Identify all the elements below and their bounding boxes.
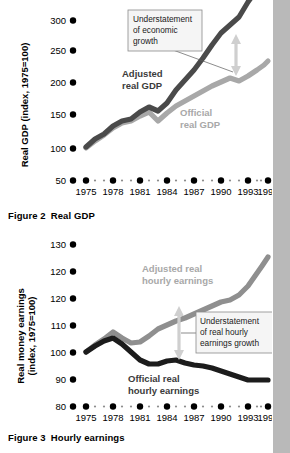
figure-2-y-tick-dot-5 bbox=[70, 177, 76, 183]
figure-2-callout-box: Understatement of economic growth bbox=[128, 10, 202, 51]
figure-3-x-tick-7: 1996 bbox=[257, 412, 272, 423]
figure-3-label-official-line-1: hourly earnings bbox=[128, 385, 199, 396]
figure-2-y-tick-1: 250 bbox=[50, 45, 66, 56]
figure-3-callout-line-2: earnings growth bbox=[200, 338, 259, 348]
figure-3-y-tick-1: 120 bbox=[50, 266, 66, 277]
figure-2-x-tick-2: 1981 bbox=[129, 186, 150, 197]
figure-3-label-official-line-0: Official real bbox=[128, 373, 180, 384]
figure-2-y-tick-4: 100 bbox=[50, 143, 66, 154]
figure-3-y-tick-dot-0 bbox=[70, 241, 76, 247]
figure-3-y-tick-dot-1 bbox=[70, 268, 76, 274]
figure-3-caption-title: Hourly earnings bbox=[51, 432, 125, 443]
figure-2-series-official-real-gdp bbox=[86, 61, 268, 148]
figure-2-y-tick-dot-4 bbox=[70, 145, 76, 151]
figure-3-chart-svg: Real money earnings (index, 1975=100) 13… bbox=[0, 228, 272, 426]
figure-2-x-tick-7: 1996 bbox=[257, 186, 272, 197]
figure-3-y-tick-dot-5 bbox=[70, 376, 76, 382]
figure-2-label-official-line-0: Official bbox=[180, 107, 212, 118]
figure-2-callout-line-2: growth bbox=[133, 36, 158, 46]
figure-2-gap-arrow-icon bbox=[231, 34, 241, 76]
figure-3-hourly-earnings: Real money earnings (index, 1975=100) 13… bbox=[0, 228, 272, 453]
figure-3-y-tick-dot-4 bbox=[70, 349, 76, 355]
figure-2-plot-area: Real GDP (index, 1975=100) 300 250 200 1… bbox=[0, 0, 272, 200]
figure-3-y-tick-dot-6 bbox=[70, 403, 76, 409]
figure-3-callout-box: Understatement of real hourly earnings g… bbox=[196, 312, 272, 353]
figure-3-caption-number: Figure 3 bbox=[8, 432, 46, 443]
figure-2-y-tick-dot-2 bbox=[70, 79, 76, 85]
figure-2-y-tick-dot-0 bbox=[70, 17, 76, 23]
figure-2-x-tick-1: 1978 bbox=[102, 186, 123, 197]
figure-3-y-tick-4: 100 bbox=[50, 347, 66, 358]
figure-3-label-adjusted-line-1: hourly earnings bbox=[142, 275, 213, 286]
figure-3-caption: Figure 3Hourly earnings bbox=[8, 432, 125, 443]
figure-3-x-tick-2: 1981 bbox=[129, 412, 150, 423]
figure-3-x-tick-3: 1984 bbox=[156, 412, 177, 423]
figure-3-y-tick-6: 80 bbox=[55, 401, 66, 412]
figure-3-x-tick-0: 1975 bbox=[75, 412, 96, 423]
figure-2-callout-line-0: Understatement bbox=[133, 14, 193, 24]
figure-2-y-tick-2: 200 bbox=[50, 77, 66, 88]
figure-2-caption-number: Figure 2 bbox=[8, 210, 46, 221]
figure-2-y-tick-3: 150 bbox=[50, 109, 66, 120]
figure-3-x-tick-6: 1993 bbox=[237, 412, 258, 423]
figure-2-y-tick-dot-3 bbox=[70, 111, 76, 117]
figure-3-x-tick-4: 1987 bbox=[183, 412, 204, 423]
figure-2-label-adjusted-line-1: real GDP bbox=[122, 80, 163, 91]
figure-2-y-tick-dot-1 bbox=[70, 47, 76, 53]
figure-3-y-axis-title-line2: (index, 1975=100) bbox=[26, 297, 37, 376]
figure-2-x-tick-5: 1990 bbox=[210, 186, 231, 197]
figure-2-y-axis-title: Real GDP (index, 1975=100) bbox=[19, 43, 30, 168]
figure-2-caption-title: Real GDP bbox=[51, 210, 95, 221]
figure-2-x-axis-dots bbox=[83, 177, 271, 183]
figure-2-x-tick-6: 1993 bbox=[237, 186, 258, 197]
figure-3-y-axis-title-line1: Real money earnings bbox=[15, 288, 26, 384]
figure-2-callout-line-1: of economic bbox=[133, 25, 178, 35]
figure-2-caption: Figure 2Real GDP bbox=[8, 210, 95, 221]
figure-3-y-tick-5: 90 bbox=[55, 374, 66, 385]
figure-3-x-tick-1: 1978 bbox=[102, 412, 123, 423]
figure-2-callout-leader-line bbox=[173, 50, 233, 72]
figure-3-callout-line-1: of real hourly bbox=[200, 327, 249, 337]
figure-2-y-tick-0: 300 bbox=[50, 15, 66, 26]
figure-3-y-tick-dot-3 bbox=[70, 322, 76, 328]
page-margin-band bbox=[272, 0, 290, 453]
figure-2-x-tick-0: 1975 bbox=[75, 186, 96, 197]
figure-2-x-tick-4: 1987 bbox=[183, 186, 204, 197]
figure-3-y-tick-dot-2 bbox=[70, 295, 76, 301]
figure-2-y-tick-5: 50 bbox=[55, 175, 66, 186]
figure-2-real-gdp: Real GDP (index, 1975=100) 300 250 200 1… bbox=[0, 0, 272, 230]
figure-3-y-tick-0: 130 bbox=[50, 239, 66, 250]
figure-3-label-adjusted-line-0: Adjusted real bbox=[142, 263, 202, 274]
figure-2-x-tick-3: 1984 bbox=[156, 186, 177, 197]
figure-3-y-tick-3: 110 bbox=[51, 320, 66, 331]
figure-2-label-official-line-1: real GDP bbox=[180, 119, 221, 130]
figure-3-plot-area: Real money earnings (index, 1975=100) 13… bbox=[0, 228, 272, 426]
figure-2-chart-svg: Real GDP (index, 1975=100) 300 250 200 1… bbox=[0, 0, 272, 200]
figure-3-y-tick-2: 120 bbox=[50, 293, 66, 304]
figure-2-label-adjusted-line-0: Adjusted bbox=[122, 68, 163, 79]
figure-3-x-axis-dots bbox=[83, 403, 271, 409]
figure-3-callout-line-0: Understatement bbox=[200, 316, 260, 326]
figure-3-x-tick-5: 1990 bbox=[210, 412, 231, 423]
